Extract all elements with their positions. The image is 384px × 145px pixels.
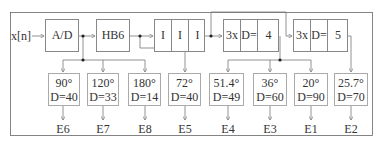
output-label-e6: E6 [48, 122, 78, 137]
delay-5-block: 3x D= 5 [293, 19, 348, 52]
interp-cell: I [172, 20, 189, 51]
d-value: D=40 [169, 90, 200, 104]
output-label-e4: E4 [213, 122, 243, 137]
interp-cell: I [189, 20, 206, 51]
d-value: D=14 [129, 90, 160, 104]
angle-value: 180° [129, 76, 160, 90]
angle-value: 36° [254, 76, 286, 90]
output-label-e3: E3 [255, 122, 285, 137]
output-label-e2: E2 [336, 122, 366, 137]
output-box-e3: 36° D=60 [253, 73, 287, 106]
d-value: D=49 [210, 90, 243, 104]
d-value: D=33 [88, 90, 118, 104]
delay-cell: D= [241, 20, 258, 51]
d-value: D=70 [335, 90, 367, 104]
delay-cell: 3x [224, 20, 241, 51]
output-box-e1: 20° D=90 [294, 73, 328, 106]
delay-cell: 3x [294, 20, 311, 51]
input-label: x[n] [11, 30, 31, 42]
angle-value: 120° [88, 76, 118, 90]
delay-cell: 4 [258, 20, 279, 51]
angle-value: 90° [49, 76, 79, 90]
output-label-e7: E7 [88, 122, 118, 137]
angle-value: 20° [295, 76, 327, 90]
hb6-label: HB6 [97, 20, 129, 51]
delay-4-block: 3x D= 4 [223, 19, 279, 52]
interp-cell: I [155, 20, 172, 51]
output-box-e7: 120° D=33 [87, 73, 119, 106]
hb6-filter-block: HB6 [96, 19, 130, 52]
angle-value: 72° [169, 76, 200, 90]
output-box-e4: 51.4° D=49 [209, 73, 244, 106]
delay-cell: 5 [328, 20, 348, 51]
d-value: D=60 [254, 90, 286, 104]
output-box-e2: 25.7° D=70 [334, 73, 368, 106]
output-box-e6: 90° D=40 [48, 73, 80, 106]
d-value: D=40 [49, 90, 79, 104]
interpolator-block: I I I [154, 19, 205, 52]
ad-label: A/D [46, 20, 78, 51]
ad-converter-block: A/D [45, 19, 79, 52]
angle-value: 51.4° [210, 76, 243, 90]
output-box-e5: 72° D=40 [168, 73, 201, 106]
output-label-e5: E5 [170, 122, 200, 137]
delay-cell: D= [311, 20, 328, 51]
output-label-e8: E8 [130, 122, 160, 137]
d-value: D=90 [295, 90, 327, 104]
output-box-e8: 180° D=14 [128, 73, 161, 106]
angle-value: 25.7° [335, 76, 367, 90]
output-label-e1: E1 [296, 122, 326, 137]
